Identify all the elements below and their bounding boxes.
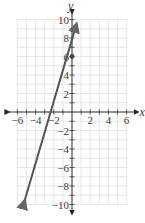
y-tick-label: −6	[57, 162, 69, 174]
coordinate-plane: −6−4−2246−10−8−6−4−2246810xy	[0, 0, 145, 223]
y-tick-label: −4	[57, 143, 69, 155]
x-tick-label: −6	[12, 114, 24, 126]
y-tick-label: 4	[64, 69, 70, 81]
y-tick-label: −2	[57, 125, 69, 137]
x-axis-label: x	[139, 105, 145, 119]
x-tick-label: 4	[106, 114, 112, 126]
y-tick-label: 2	[64, 88, 70, 100]
y-tick-label: −8	[57, 180, 69, 192]
y-tick-label: 8	[64, 32, 70, 44]
y-tick-label: 10	[58, 14, 70, 26]
y-tick-label: −10	[52, 199, 70, 211]
intercept-point	[70, 54, 75, 59]
y-axis-label: y	[67, 0, 74, 13]
y-tick-label: 6	[64, 51, 70, 63]
x-tick-label: −4	[30, 114, 42, 126]
x-tick-label: 6	[124, 114, 130, 126]
x-tick-label: 2	[87, 114, 93, 126]
